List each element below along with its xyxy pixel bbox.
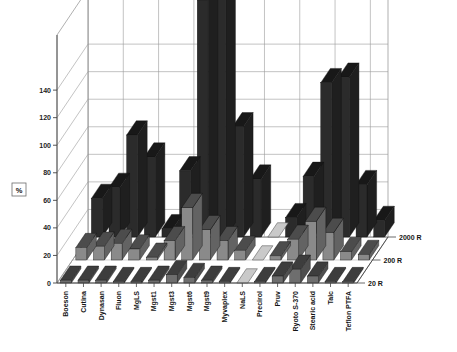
y-axis-tick-label: 20 bbox=[43, 252, 51, 259]
y-axis-label: % bbox=[16, 186, 23, 195]
bar-front-face bbox=[290, 269, 301, 283]
x-axis-category-label-nals: NaLS bbox=[239, 291, 246, 309]
x-axis-category-label-stearic-acid: Stearic acid bbox=[309, 291, 316, 330]
series-label-2000-r: 2000 R bbox=[399, 234, 422, 241]
bar-front-face bbox=[94, 246, 105, 260]
bar-side-face bbox=[226, 0, 236, 237]
x-axis-category-label-teflon-ptfa: Teflon PTFA bbox=[345, 291, 352, 331]
x-axis-category-label-myvaplex: Myvaplex bbox=[221, 291, 229, 323]
x-axis-category-label-mgst3: Mgst3 bbox=[168, 291, 176, 311]
series-label-20-r: 20 R bbox=[368, 280, 383, 287]
bar-front-face bbox=[146, 257, 157, 260]
x-axis-category-label-precirol: Precirol bbox=[256, 291, 263, 317]
bar-front-face bbox=[91, 198, 102, 237]
bar-front-face bbox=[358, 254, 369, 260]
x-axis-category-label-talc: Talc bbox=[327, 291, 334, 305]
y-axis-tick-label: 100 bbox=[39, 142, 51, 149]
bar-front-face bbox=[235, 250, 246, 260]
y-axis-tick-label: 120 bbox=[39, 114, 51, 121]
y-axis-tick-label: 60 bbox=[43, 197, 51, 204]
bar-front-face bbox=[270, 256, 281, 260]
y-axis-tick-label: 140 bbox=[39, 87, 51, 94]
series-label-200-r: 200 R bbox=[384, 257, 403, 264]
bar-side-face bbox=[332, 68, 342, 237]
x-axis-category-label-ryoto-s-370: Ryoto S-370 bbox=[292, 291, 300, 332]
x-axis-category-label-fluon: Fluon bbox=[115, 291, 122, 310]
y-axis-tick-label: 0 bbox=[47, 280, 51, 287]
x-axis-category-label-mgst1: Mgst1 bbox=[150, 291, 158, 311]
bar-front-face bbox=[166, 275, 177, 283]
bar-front-face bbox=[76, 248, 87, 260]
y-axis-tick-label: 40 bbox=[43, 224, 51, 231]
bar-front-face bbox=[272, 276, 283, 283]
x-axis-category-label-mgst6: Mgst6 bbox=[186, 291, 194, 311]
x-axis-category-label-dynasan: Dynasan bbox=[98, 291, 106, 320]
x-axis-category-label-mgls: MgLS bbox=[133, 291, 141, 310]
bar-side-face bbox=[243, 113, 253, 237]
disintegration-time-3d-bar-chart: Increase in disintegration time, % % 020… bbox=[0, 0, 457, 352]
y-axis-label-box: % bbox=[12, 183, 26, 196]
bar-side-face bbox=[208, 0, 218, 237]
bar-side-face bbox=[349, 63, 359, 237]
x-axis-category-label-mgst9: Mgst9 bbox=[203, 291, 211, 311]
x-axis-category-label-cutina: Cutina bbox=[80, 291, 87, 313]
bar-front-face bbox=[341, 252, 352, 260]
x-axis-category-label-boeson: Boeson bbox=[62, 291, 69, 317]
bar-front-face bbox=[307, 276, 318, 283]
bar-side-face bbox=[155, 143, 165, 237]
bar-side-face bbox=[138, 121, 148, 237]
x-axis-category-label-pruv: Pruv bbox=[274, 291, 281, 307]
y-axis-tick-label: 80 bbox=[43, 169, 51, 176]
chart-root: Increase in disintegration time, % % 020… bbox=[0, 0, 457, 352]
bar-front-face bbox=[184, 277, 195, 283]
bar-front-face bbox=[129, 249, 140, 260]
